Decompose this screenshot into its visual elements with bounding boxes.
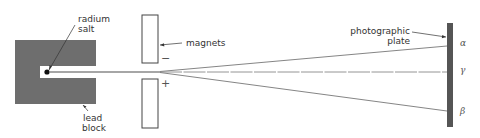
label-photographic: photographic: [350, 26, 410, 36]
arrowhead-lead-block: [83, 105, 87, 108]
pointer-plate: [412, 32, 446, 37]
radioactivity-diagram: radium salt lead block magnets − + photo…: [0, 0, 480, 138]
label-radium: radium: [78, 14, 110, 24]
label-block: block: [82, 123, 107, 133]
photographic-plate: [447, 23, 453, 127]
label-lead: lead: [83, 113, 102, 123]
magnet-lower: [142, 79, 158, 128]
arrowhead-magnets: [160, 43, 164, 46]
ray-alpha: [160, 46, 447, 72]
ray-beta: [160, 73, 447, 112]
sign-plus: +: [161, 77, 170, 90]
sign-minus: −: [161, 52, 170, 65]
radium-salt-source: [44, 69, 49, 74]
label-beta: β: [459, 106, 465, 116]
label-salt: salt: [78, 24, 95, 34]
label-gamma: γ: [460, 65, 466, 75]
label-alpha: α: [460, 38, 466, 48]
magnet-upper: [142, 15, 158, 63]
label-plate: plate: [387, 36, 410, 46]
label-magnets: magnets: [186, 38, 226, 48]
